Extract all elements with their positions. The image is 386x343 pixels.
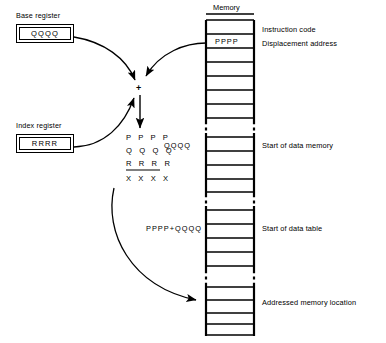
memory-column-title: Memory: [213, 3, 240, 12]
result-to-memory-arrow: [112, 188, 196, 300]
memory-cell-dividers: [206, 20, 254, 335]
base-register-to-adder-arrow: [74, 37, 135, 80]
memory-cell-displacement-value: PPPP: [215, 37, 239, 46]
displacement-to-adder-arrow: [146, 43, 206, 76]
index-register-box: RRRR: [16, 134, 74, 153]
index-register-to-adder-arrow: [74, 98, 134, 147]
label-start-of-data-table: Start of data table: [262, 224, 322, 233]
label-addressed-memory-location: Addressed memory location: [262, 298, 356, 307]
base-register-box: QQQQ: [16, 24, 74, 43]
label-instruction-code: Instruction code: [262, 25, 316, 34]
memory-column-rails: [206, 20, 254, 336]
sum-result: X X X X: [126, 174, 171, 183]
base-register-value: QQQQ: [19, 27, 71, 40]
sum-operand-index: R R R R: [126, 159, 172, 168]
data-memory-start-address: QQQQ: [164, 141, 191, 150]
diagram-vector-layer: [0, 0, 386, 343]
index-register-value: RRRR: [19, 137, 71, 150]
label-displacement-address: Displacement address: [262, 39, 337, 48]
adder-plus-icon: +: [136, 84, 141, 93]
data-table-start-address: PPPP+QQQQ: [146, 224, 202, 233]
label-start-of-data-memory: Start of data memory: [262, 141, 333, 150]
base-register-caption: Base register: [16, 12, 60, 19]
index-register-caption: Index register: [16, 122, 62, 129]
memory-addressing-diagram: Base register QQQQ Index register RRRR +…: [0, 0, 386, 343]
memory-break-dashes: [206, 121, 254, 283]
